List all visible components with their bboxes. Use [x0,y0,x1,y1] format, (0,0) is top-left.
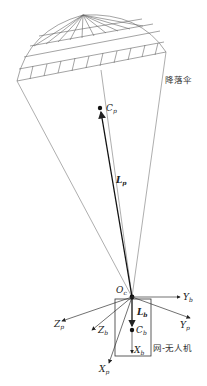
label-drone: 网-无人机 [153,343,192,353]
label-yp: Yp [180,320,190,332]
label-parachute: 降落伞 [165,75,192,85]
label-cp: Cp [106,103,117,115]
label-oc: Oc [116,285,127,296]
parachute-canopy [17,15,166,81]
drone-box [115,299,151,356]
label-xp: Xp [98,364,109,376]
cb-point [130,328,134,332]
zp-axis [62,297,132,321]
suspension-lines [17,52,166,297]
label-zb: Zb [97,325,108,336]
cp-point [98,106,102,110]
label-lb: Lb [136,307,148,318]
parachute-drone-diagram: Cp Lp 降落伞 Oc Yb Yp Zp Zb Lb Cb Xb Xp 网-无… [0,0,207,386]
lp-vector [101,112,132,297]
label-yb: Yb [183,292,193,303]
label-cb: Cb [136,325,147,336]
label-xb: Xb [133,345,144,356]
